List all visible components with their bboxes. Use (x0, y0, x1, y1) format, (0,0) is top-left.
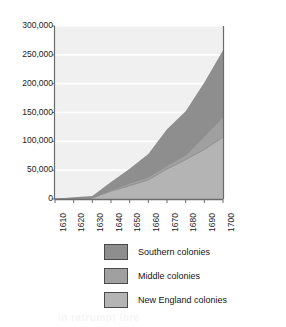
y-tick-label: 300,000 (5, 21, 53, 30)
x-tick-label: 1670 (171, 213, 180, 232)
x-tick-label: 1620 (77, 213, 86, 232)
x-tick-label: 1630 (96, 213, 105, 232)
x-tick-label: 1650 (133, 213, 142, 232)
legend-label: Middle colonies (138, 271, 200, 281)
y-tick-label: 0 (5, 194, 53, 203)
chart-figure: IT SI III IIT IONS Controversi and Chang… (0, 0, 286, 327)
y-tick-label: 100,000 (5, 136, 53, 145)
x-tick-label: 1690 (208, 213, 217, 232)
x-tick-label: 1680 (189, 213, 198, 232)
legend-swatch-icon (104, 292, 128, 308)
x-tick-label: 1610 (59, 213, 68, 232)
legend-swatch-icon (104, 244, 128, 260)
x-tick-label: 1700 (227, 213, 236, 232)
ghost-bleed-text: in ratrumpt ihre (58, 312, 140, 323)
x-axis: 1610162016301640165016601670168016901700 (55, 200, 225, 240)
chart-legend: Southern coloniesMiddle coloniesNew Engl… (0, 240, 286, 312)
x-tick-label: 1660 (152, 213, 161, 232)
y-tick-label: 200,000 (5, 79, 53, 88)
legend-item[interactable]: New England colonies (0, 288, 286, 312)
legend-swatch-icon (104, 268, 128, 284)
legend-label: New England colonies (138, 295, 227, 305)
y-tick-label: 150,000 (5, 108, 53, 117)
legend-item[interactable]: Southern colonies (0, 240, 286, 264)
legend-item[interactable]: Middle colonies (0, 264, 286, 288)
legend-label: Southern colonies (138, 247, 210, 257)
y-axis: 050,000100,000150,000200,000250,000300,0… (0, 0, 53, 215)
x-tick-label: 1640 (115, 213, 124, 232)
y-tick-label: 250,000 (5, 50, 53, 59)
y-tick-label: 50,000 (5, 165, 53, 174)
